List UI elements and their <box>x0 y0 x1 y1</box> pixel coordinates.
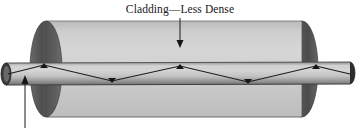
core-pointer-arrow <box>22 75 29 128</box>
optical-fiber-diagram: Cladding—Less Dense <box>0 0 357 128</box>
figure-canvas: Cladding—Less Dense <box>0 0 357 128</box>
cladding-label: Cladding—Less Dense <box>126 3 234 16</box>
core-fiber-tube <box>1 62 355 85</box>
core-tube-body <box>6 62 350 85</box>
